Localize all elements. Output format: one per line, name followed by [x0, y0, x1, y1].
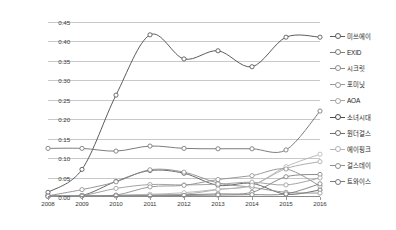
data-point-marker: [148, 144, 152, 148]
legend-item-3[interactable]: 시크릿: [330, 60, 396, 76]
data-point-marker: [250, 183, 254, 187]
data-point-marker: [216, 177, 220, 181]
data-point-marker: [216, 182, 220, 186]
data-point-marker: [148, 33, 152, 37]
y-axis-tick-label: 0.15: [58, 135, 70, 142]
x-axis-tick-mark: [218, 197, 219, 200]
x-axis-tick-label: 2014: [235, 200, 269, 207]
line-chart: 0.000.050.100.150.200.250.300.350.400.45…: [0, 0, 396, 230]
data-point-marker: [114, 93, 118, 97]
x-axis-tick-mark: [320, 197, 321, 200]
series-layer: [48, 22, 320, 197]
data-point-marker: [114, 186, 118, 190]
legend-label: 걸스데이: [347, 161, 370, 170]
legend-item-10[interactable]: 트와이스: [330, 174, 396, 190]
x-axis-tick-mark: [48, 197, 49, 200]
data-point-marker: [80, 146, 84, 150]
legend-marker-icon: [330, 129, 345, 138]
data-point-marker: [80, 167, 84, 171]
legend-marker-icon: [330, 96, 345, 105]
data-point-marker: [318, 182, 322, 186]
legend-label: AOA: [347, 97, 360, 104]
legend-item-8[interactable]: 에이핑크: [330, 141, 396, 157]
data-point-marker: [216, 187, 220, 191]
y-axis-tick-label: 0.30: [58, 77, 70, 84]
data-point-marker: [318, 35, 322, 39]
x-axis-tick-label: 2016: [303, 200, 337, 207]
x-axis-tick-label: 2010: [99, 200, 133, 207]
legend-marker-icon: [330, 113, 345, 122]
x-axis-tick-mark: [252, 197, 253, 200]
legend-label: 소녀시대: [347, 113, 370, 122]
data-point-marker: [284, 148, 288, 152]
data-point-marker: [80, 188, 84, 192]
data-point-marker: [250, 147, 254, 151]
data-point-marker: [216, 147, 220, 151]
legend-item-7[interactable]: 원더걸스: [330, 125, 396, 141]
data-point-marker: [284, 35, 288, 39]
data-point-marker: [284, 175, 288, 179]
y-axis-tick-label: 0.40: [58, 38, 70, 45]
data-point-marker: [318, 176, 322, 180]
y-axis-tick-label: 0.20: [58, 116, 70, 123]
legend-marker-icon: [330, 64, 345, 73]
data-point-marker: [284, 167, 288, 171]
data-point-marker: [318, 109, 322, 113]
y-axis-tick-label: 0.05: [58, 174, 70, 181]
legend-label: 시크릿: [347, 64, 365, 73]
data-point-marker: [114, 180, 118, 184]
y-axis-tick-label: 0.25: [58, 96, 70, 103]
data-point-marker: [284, 183, 288, 187]
data-point-marker: [216, 49, 220, 53]
data-point-marker: [318, 191, 322, 195]
data-point-marker: [182, 170, 186, 174]
legend-marker-icon: [330, 145, 345, 154]
y-axis-tick-label: 0.35: [58, 57, 70, 64]
x-axis-tick-label: 2012: [167, 200, 201, 207]
x-axis-tick-mark: [82, 197, 83, 200]
legend-label: 포미닛: [347, 80, 365, 89]
x-axis-tick-label: 2011: [133, 200, 167, 207]
x-axis-tick-label: 2008: [31, 200, 65, 207]
legend-marker-icon: [330, 177, 345, 186]
legend-label: 미쓰에이: [347, 32, 370, 41]
data-point-marker: [182, 183, 186, 187]
x-axis-tick-mark: [184, 197, 185, 200]
data-point-marker: [318, 160, 322, 164]
legend-item-6[interactable]: 소녀시대: [330, 109, 396, 125]
legend-item-9[interactable]: 걸스데이: [330, 158, 396, 174]
data-point-marker: [318, 152, 322, 156]
data-point-marker: [182, 57, 186, 61]
legend-label: 트와이스: [347, 177, 370, 186]
legend-label: 에이핑크: [347, 145, 370, 154]
legend-label: EXID: [347, 49, 361, 56]
data-point-marker: [148, 168, 152, 172]
series-7: [46, 109, 322, 153]
y-axis-tick-label: 0.10: [58, 155, 70, 162]
x-axis-tick-label: 2015: [269, 200, 303, 207]
chart-legend: 미쓰에이EXID시크릿포미닛AOA소녀시대원더걸스에이핑크걸스데이트와이스: [330, 28, 396, 190]
legend-item-2[interactable]: EXID: [330, 44, 396, 60]
legend-label: 원더걸스: [347, 129, 370, 138]
data-point-marker: [46, 146, 50, 150]
plot-area: [48, 22, 320, 197]
x-axis-tick-mark: [150, 197, 151, 200]
legend-item-5[interactable]: AOA: [330, 93, 396, 109]
x-axis-tick-label: 2013: [201, 200, 235, 207]
data-point-marker: [250, 174, 254, 178]
y-axis-tick-label: 0.45: [58, 19, 70, 26]
data-point-marker: [114, 149, 118, 153]
legend-marker-icon: [330, 161, 345, 170]
data-point-marker: [182, 146, 186, 150]
x-axis-tick-mark: [286, 197, 287, 200]
x-axis-tick-label: 2009: [65, 200, 99, 207]
legend-item-4[interactable]: 포미닛: [330, 77, 396, 93]
legend-marker-icon: [330, 48, 345, 57]
legend-marker-icon: [330, 32, 345, 41]
data-point-marker: [250, 65, 254, 69]
data-point-marker: [148, 185, 152, 189]
legend-marker-icon: [330, 80, 345, 89]
x-axis-tick-mark: [116, 197, 117, 200]
legend-item-1[interactable]: 미쓰에이: [330, 28, 396, 44]
